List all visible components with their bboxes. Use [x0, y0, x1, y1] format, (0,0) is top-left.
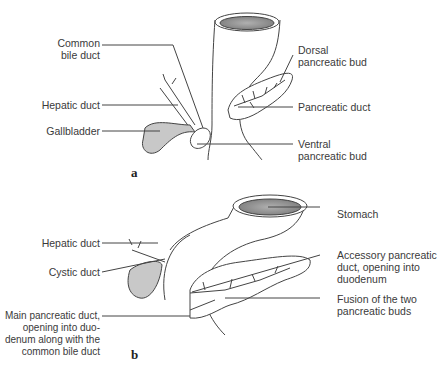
label-common-bile-duct: Common bile duct — [40, 37, 100, 61]
label-line: Accessory pancreatic — [337, 249, 437, 261]
label-line: pancreatic bud — [298, 150, 367, 162]
label-line: pancreatic buds — [337, 305, 417, 317]
label-line: Main pancreatic duct, — [0, 310, 100, 322]
label-line: Dorsal — [298, 44, 367, 56]
label-main-pancreatic-duct: Main pancreatic duct, opening into duo- … — [0, 310, 100, 358]
label-accessory-duct: Accessory pancreatic duct, opening into … — [337, 249, 437, 285]
label-fusion: Fusion of the two pancreatic buds — [337, 293, 417, 317]
label-line: bile duct — [40, 49, 100, 61]
gallbladder-a — [142, 123, 195, 154]
label-line: common bile duct — [0, 346, 100, 358]
label-line: Ventral — [298, 138, 367, 150]
label-line: duct, opening into — [337, 261, 437, 273]
label-cystic-duct: Cystic duct — [20, 266, 100, 278]
label-line: duodenum — [337, 273, 437, 285]
label-dorsal-bud: Dorsal pancreatic bud — [298, 44, 367, 68]
label-hepatic-duct-b: Hepatic duct — [20, 237, 100, 249]
label-stomach: Stomach — [337, 208, 378, 220]
panel-letter-a: a — [131, 165, 138, 181]
label-gallbladder: Gallbladder — [20, 125, 100, 137]
label-pancreatic-duct: Pancreatic duct — [298, 101, 370, 113]
label-hepatic-duct-a: Hepatic duct — [20, 99, 100, 111]
panel-letter-b: b — [131, 347, 138, 363]
label-line: opening into duo- — [0, 322, 100, 334]
label-ventral-bud: Ventral pancreatic bud — [298, 138, 367, 162]
label-line: pancreatic bud — [298, 56, 367, 68]
label-line: denum along with the — [0, 334, 100, 346]
gallbladder-b — [128, 261, 162, 298]
label-line: Common — [40, 37, 100, 49]
label-line: Fusion of the two — [337, 293, 417, 305]
